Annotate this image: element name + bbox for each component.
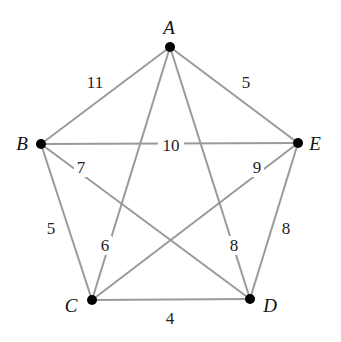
edge-BD — [41, 144, 250, 299]
node-label-D: D — [262, 295, 277, 316]
edge-AD — [170, 47, 250, 299]
edge-weight-BC: 5 — [47, 219, 56, 238]
node-label-B: B — [16, 133, 28, 154]
edge-weight-ED: 8 — [282, 219, 291, 238]
node-label-C: C — [65, 295, 78, 316]
edge-AE — [170, 47, 298, 143]
node-label-E: E — [308, 133, 321, 154]
node-labels-layer: ABCDE — [16, 17, 321, 316]
node-B — [36, 139, 46, 149]
edge-weight-AC: 6 — [101, 236, 110, 255]
edge-CD — [92, 299, 250, 300]
edge-AB — [41, 47, 170, 144]
edge-weight-AD: 8 — [230, 236, 239, 255]
weighted-graph-diagram: 115681075984 ABCDE — [0, 0, 341, 342]
node-label-A: A — [161, 17, 175, 38]
node-D — [245, 294, 255, 304]
node-C — [87, 295, 97, 305]
edge-weight-AB: 11 — [87, 73, 103, 92]
edge-weight-AE: 5 — [242, 73, 251, 92]
node-A — [165, 42, 175, 52]
edge-AC — [92, 47, 170, 300]
edge-EC — [92, 143, 298, 300]
edge-weight-BD: 7 — [77, 158, 86, 177]
edge-weight-EC: 9 — [253, 158, 262, 177]
edge-weight-BE: 10 — [163, 136, 180, 155]
node-E — [293, 138, 303, 148]
edge-weight-CD: 4 — [166, 309, 175, 328]
